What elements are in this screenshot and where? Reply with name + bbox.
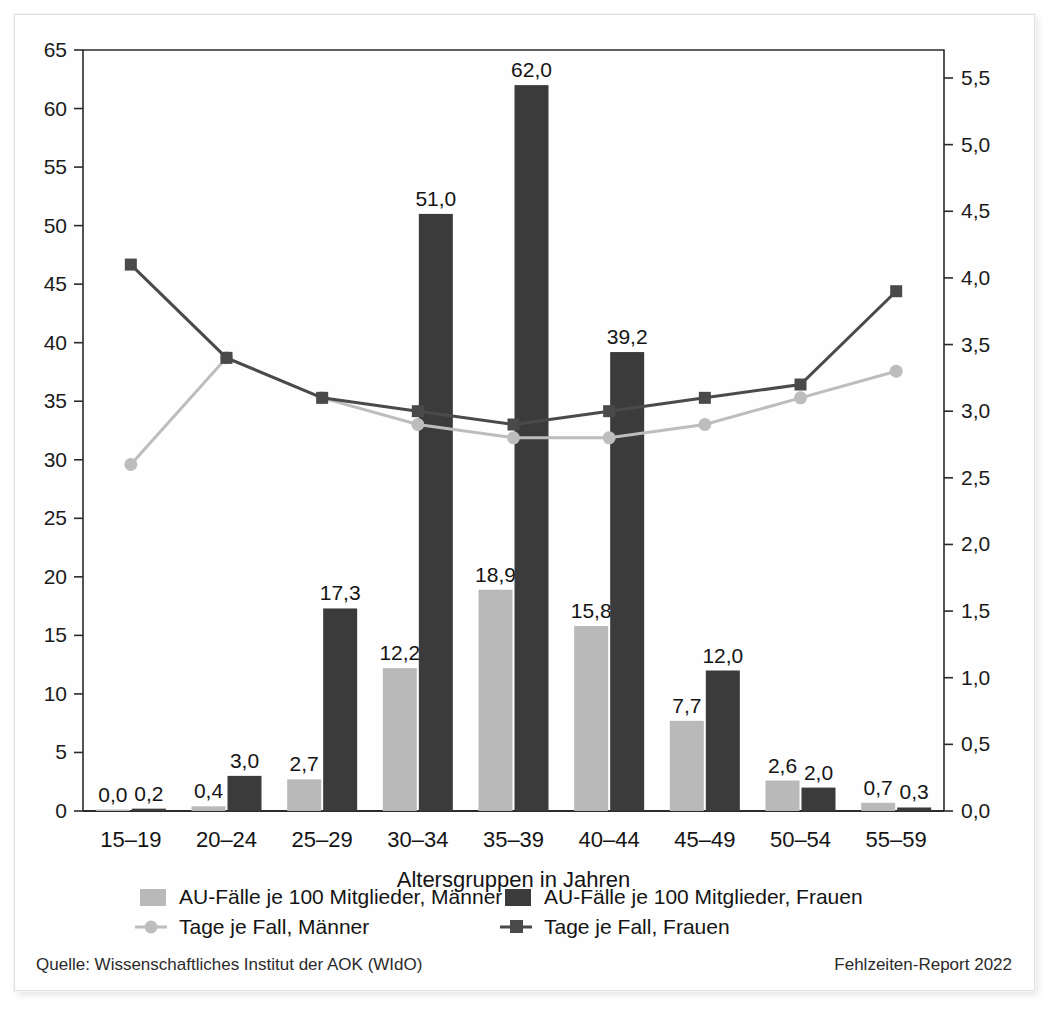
x-axis-category-label: 25–29 bbox=[292, 827, 353, 852]
bar bbox=[287, 779, 321, 811]
bar bbox=[574, 626, 608, 811]
bar-value-label: 15,8 bbox=[571, 599, 612, 622]
y2-axis-tick-label: 4,0 bbox=[961, 266, 990, 289]
y-axis-tick-label: 0 bbox=[55, 799, 67, 822]
bar-value-label: 12,2 bbox=[379, 641, 420, 664]
legend-label: Tage je Fall, Männer bbox=[179, 915, 369, 938]
y-axis-tick-label: 55 bbox=[44, 155, 67, 178]
bar bbox=[228, 776, 262, 811]
chart-svg: 051015202530354045505560650,00,51,01,52,… bbox=[0, 0, 1049, 1017]
bar-value-label: 0,0 bbox=[98, 783, 127, 806]
bar bbox=[766, 781, 800, 811]
y-axis-tick-label: 45 bbox=[44, 272, 67, 295]
y2-axis-tick-label: 5,0 bbox=[961, 133, 990, 156]
legend-label: AU-Fälle je 100 Mitglieder, Männer bbox=[179, 885, 502, 908]
x-axis-category-label: 30–34 bbox=[387, 827, 448, 852]
bar bbox=[383, 668, 417, 811]
line-marker bbox=[699, 392, 711, 404]
figure-container: 051015202530354045505560650,00,51,01,52,… bbox=[0, 0, 1049, 1017]
y-axis-tick-label: 35 bbox=[44, 389, 67, 412]
line-marker bbox=[507, 431, 520, 444]
bar bbox=[897, 807, 931, 811]
y2-axis-tick-label: 2,5 bbox=[961, 466, 990, 489]
bar bbox=[479, 590, 513, 811]
bar bbox=[670, 721, 704, 811]
line-marker bbox=[221, 352, 233, 364]
y2-axis-tick-label: 3,0 bbox=[961, 399, 990, 422]
bar bbox=[515, 85, 549, 811]
x-axis-category-label: 40–44 bbox=[579, 827, 640, 852]
bar bbox=[861, 803, 895, 811]
x-axis-category-label: 55–59 bbox=[866, 827, 927, 852]
y-axis-tick-label: 30 bbox=[44, 448, 67, 471]
y2-axis-tick-label: 5,5 bbox=[961, 66, 990, 89]
bar-value-label: 62,0 bbox=[511, 58, 552, 81]
y2-axis-tick-label: 3,5 bbox=[961, 333, 990, 356]
x-axis-category-label: 35–39 bbox=[483, 827, 544, 852]
legend-marker bbox=[145, 921, 158, 934]
y2-axis-tick-label: 1,0 bbox=[961, 666, 990, 689]
y2-axis-tick-label: 2,0 bbox=[961, 532, 990, 555]
legend-marker bbox=[510, 920, 523, 933]
y-axis-tick-label: 25 bbox=[44, 506, 67, 529]
bar-value-label: 18,9 bbox=[475, 563, 516, 586]
y-axis-tick-label: 5 bbox=[55, 740, 67, 763]
bar-value-label: 0,7 bbox=[864, 776, 893, 799]
bar bbox=[706, 671, 740, 811]
y-axis-tick-label: 10 bbox=[44, 682, 67, 705]
legend-label: Tage je Fall, Frauen bbox=[544, 915, 730, 938]
x-axis-category-label: 45–49 bbox=[674, 827, 735, 852]
bar bbox=[802, 788, 836, 811]
bar bbox=[323, 608, 357, 811]
y-axis-tick-label: 60 bbox=[44, 97, 67, 120]
y-axis-tick-label: 65 bbox=[44, 38, 67, 61]
bar-value-label: 7,7 bbox=[672, 694, 701, 717]
series-line bbox=[131, 358, 896, 465]
bar bbox=[132, 809, 166, 811]
line-marker bbox=[890, 365, 903, 378]
chart-area: 051015202530354045505560650,00,51,01,52,… bbox=[0, 0, 1049, 1017]
line-marker bbox=[316, 392, 328, 404]
bar bbox=[419, 214, 453, 811]
series-line bbox=[131, 265, 896, 425]
x-axis-category-label: 50–54 bbox=[770, 827, 831, 852]
bar-value-label: 3,0 bbox=[230, 749, 259, 772]
line-marker bbox=[124, 458, 137, 471]
bar-value-label: 51,0 bbox=[415, 187, 456, 210]
bar-value-label: 39,2 bbox=[607, 325, 648, 348]
line-marker bbox=[412, 405, 424, 417]
y-axis-tick-label: 40 bbox=[44, 331, 67, 354]
bar-value-label: 0,2 bbox=[134, 782, 163, 805]
bar-value-label: 2,0 bbox=[804, 761, 833, 784]
bar bbox=[610, 352, 644, 811]
bar-value-label: 17,3 bbox=[320, 581, 361, 604]
bar bbox=[96, 810, 130, 812]
line-marker bbox=[508, 419, 520, 431]
bar bbox=[192, 806, 226, 811]
source-note: Quelle: Wissenschaftliches Institut der … bbox=[36, 955, 422, 974]
y2-axis-tick-label: 4,5 bbox=[961, 199, 990, 222]
line-marker bbox=[125, 259, 137, 271]
line-marker bbox=[603, 405, 615, 417]
legend-label: AU-Fälle je 100 Mitglieder, Frauen bbox=[544, 885, 863, 908]
line-marker bbox=[890, 285, 902, 297]
line-marker bbox=[794, 391, 807, 404]
legend-swatch bbox=[505, 889, 531, 906]
line-marker bbox=[603, 431, 616, 444]
y-axis-tick-label: 50 bbox=[44, 214, 67, 237]
bar-value-label: 0,3 bbox=[900, 780, 929, 803]
y2-axis-tick-label: 0,0 bbox=[961, 799, 990, 822]
bar-value-label: 2,6 bbox=[768, 754, 797, 777]
y2-axis-tick-label: 1,5 bbox=[961, 599, 990, 622]
line-marker bbox=[411, 418, 424, 431]
bar-value-label: 2,7 bbox=[290, 752, 319, 775]
report-note: Fehlzeiten-Report 2022 bbox=[834, 955, 1012, 974]
legend-swatch bbox=[140, 889, 166, 906]
x-axis-category-label: 20–24 bbox=[196, 827, 257, 852]
x-axis-category-label: 15–19 bbox=[100, 827, 161, 852]
line-marker bbox=[795, 379, 807, 391]
line-marker bbox=[698, 418, 711, 431]
bar-value-label: 12,0 bbox=[702, 644, 743, 667]
y2-axis-tick-label: 0,5 bbox=[961, 732, 990, 755]
y-axis-tick-label: 15 bbox=[44, 623, 67, 646]
